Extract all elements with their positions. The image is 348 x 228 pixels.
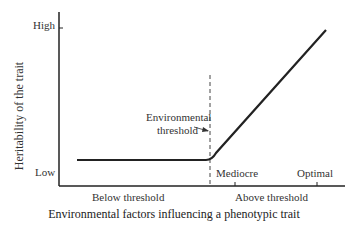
arrow-head bbox=[202, 127, 209, 132]
threshold-label-2: threshold bbox=[157, 125, 198, 136]
y-tick-high: High bbox=[33, 20, 55, 31]
threshold-label-1: Environmental bbox=[146, 112, 211, 123]
y-axis-label: Heritability of the trait bbox=[13, 41, 25, 191]
x-axis-label: Environmental factors influencing a phen… bbox=[0, 207, 348, 222]
y-tick-low: Low bbox=[35, 167, 55, 178]
region-below: Below threshold bbox=[92, 192, 164, 203]
x-tick-optimal: Optimal bbox=[297, 168, 333, 179]
heritability-curve bbox=[77, 30, 326, 160]
x-tick-mediocre: Mediocre bbox=[216, 168, 258, 179]
region-above: Above threshold bbox=[235, 192, 308, 203]
